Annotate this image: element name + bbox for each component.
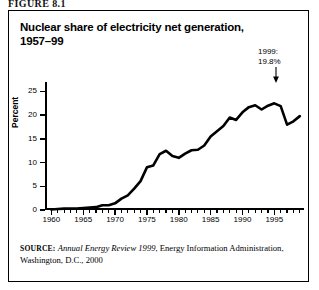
x-tick-minor (280, 210, 281, 213)
y-tick-label-0: 0 (11, 205, 37, 214)
x-tick-minor (267, 210, 268, 213)
x-tick-minor (140, 210, 141, 213)
x-tick-minor (70, 210, 71, 213)
x-tick-minor (153, 210, 154, 213)
source-prefix: SOURCE: (20, 244, 56, 253)
x-tick-minor (89, 210, 90, 213)
x-tick-minor (172, 210, 173, 213)
x-tick-minor (191, 210, 192, 213)
x-tick-minor (95, 210, 96, 213)
figure-label: FIGURE 8.1 (8, 0, 188, 10)
x-tick-minor (255, 210, 256, 213)
x-tick-minor (204, 210, 205, 213)
x-tick-minor (299, 210, 300, 213)
data-line-nuclear-share (51, 103, 299, 209)
x-tick-minor (185, 210, 186, 213)
chart-title-line1: Nuclear share of electricity net generat… (20, 21, 244, 33)
y-tick-label-25: 25 (11, 86, 37, 95)
annotation-line2: 19.8% (258, 57, 304, 67)
x-tick-minor (261, 210, 262, 213)
y-tick-label-10: 10 (11, 158, 37, 167)
x-tick-minor (159, 210, 160, 213)
y-tick-label-20: 20 (11, 110, 37, 119)
x-tick-minor (236, 210, 237, 213)
plot-area (45, 82, 303, 210)
x-tick-label-1995: 1995 (256, 215, 292, 224)
annotation-1999: 1999: 19.8% (258, 47, 304, 84)
x-tick-minor (121, 210, 122, 213)
x-tick-minor (76, 210, 77, 213)
x-tick-minor (286, 210, 287, 213)
x-tick-minor (165, 210, 166, 213)
source-note: SOURCE: Annual Energy Review 1999, Energ… (20, 243, 288, 266)
x-tick-minor (293, 210, 294, 213)
x-tick-label-1965: 1965 (65, 215, 101, 224)
x-tick-minor (57, 210, 58, 213)
down-arrow-icon (271, 67, 295, 84)
source-publication: Annual Energy Review 1999 (58, 243, 156, 253)
chart-title: Nuclear share of electricity net generat… (20, 21, 270, 48)
chart-title-line2: 1957–99 (20, 35, 270, 49)
x-tick-minor (229, 210, 230, 213)
x-tick-minor (127, 210, 128, 213)
y-tick-label-15: 15 (11, 134, 37, 143)
x-tick-label-1975: 1975 (129, 215, 165, 224)
x-tick-label-1960: 1960 (33, 215, 69, 224)
x-tick-minor (223, 210, 224, 213)
x-tick-minor (134, 210, 135, 213)
figure-container: FIGURE 8.1 Nuclear share of electricity … (0, 0, 319, 290)
x-tick-minor (64, 210, 65, 213)
annotation-line1: 1999: (258, 47, 304, 57)
x-tick-minor (102, 210, 103, 213)
x-tick-minor (216, 210, 217, 213)
x-tick-minor (197, 210, 198, 213)
x-tick-label-1980: 1980 (161, 215, 197, 224)
x-tick-minor (248, 210, 249, 213)
x-tick-minor (108, 210, 109, 213)
y-tick-label-5: 5 (11, 181, 37, 190)
x-tick-label-1985: 1985 (193, 215, 229, 224)
x-tick-label-1990: 1990 (224, 215, 260, 224)
x-tick-label-1970: 1970 (97, 215, 133, 224)
